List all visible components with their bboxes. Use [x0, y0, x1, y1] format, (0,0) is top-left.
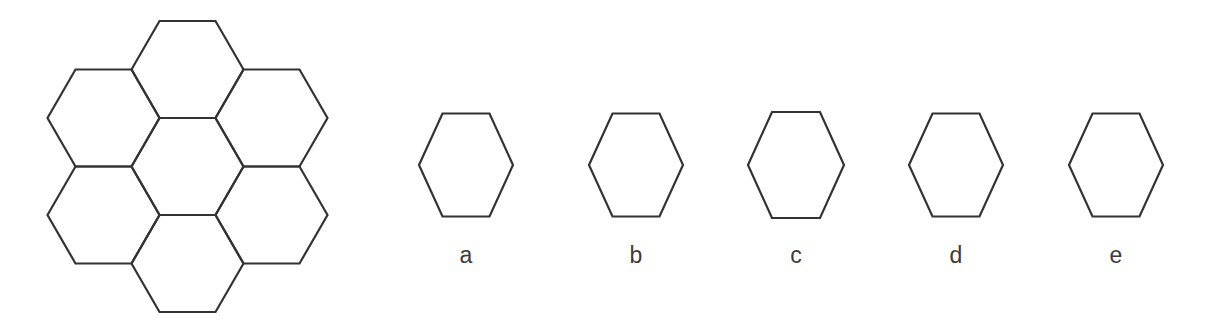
hexagon-shape-d	[886, 100, 1026, 230]
honeycomb-cell-bottom	[132, 215, 244, 312]
stimulus-honeycomb-figure	[0, 0, 390, 329]
honeycomb-svg	[0, 0, 390, 329]
answer-option-a[interactable]: a	[396, 100, 536, 290]
answer-option-e[interactable]: e	[1046, 100, 1186, 290]
answer-option-c[interactable]: c	[726, 100, 866, 290]
option-label-a: a	[396, 242, 536, 268]
hexagon-shape-e	[1046, 100, 1186, 230]
honeycomb-cell-group	[48, 21, 328, 312]
honeycomb-cell-lower-right	[216, 167, 328, 264]
answer-options-row: a b c d e	[390, 0, 1225, 329]
honeycomb-cell-upper-left	[48, 70, 160, 167]
honeycomb-cell-lower-left	[48, 167, 160, 264]
option-label-c: c	[726, 242, 866, 268]
hexagon-shape-a	[396, 100, 536, 230]
honeycomb-cell-top	[132, 21, 244, 118]
option-label-b: b	[566, 242, 706, 268]
honeycomb-cell-center	[132, 118, 244, 215]
option-label-e: e	[1046, 242, 1186, 268]
hexagon-shape-b	[566, 100, 706, 230]
option-label-d: d	[886, 242, 1026, 268]
answer-option-d[interactable]: d	[886, 100, 1026, 290]
hexagon-puzzle-canvas: a b c d e	[0, 0, 1225, 329]
answer-option-b[interactable]: b	[566, 100, 706, 290]
hexagon-shape-c	[726, 100, 866, 230]
honeycomb-cell-upper-right	[216, 70, 328, 167]
